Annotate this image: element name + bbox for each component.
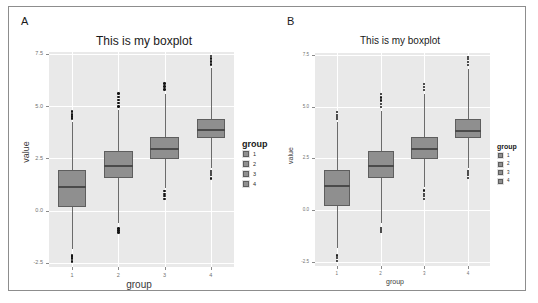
y-tick-label: 0.0 bbox=[19, 207, 43, 213]
x-tick-mark bbox=[72, 267, 73, 270]
legend-label: 2 bbox=[507, 161, 510, 166]
outlier-point bbox=[117, 105, 120, 108]
plot-title-b: This is my boxplot bbox=[305, 35, 495, 46]
boxplot-box bbox=[58, 170, 87, 207]
y-tick-label: -2.5 bbox=[19, 259, 43, 265]
x-tick-mark bbox=[118, 267, 119, 270]
x-tick-mark bbox=[381, 266, 382, 269]
outlier-point bbox=[380, 231, 382, 233]
outlier-point bbox=[380, 229, 382, 231]
outlier-point bbox=[117, 96, 120, 99]
x-tick-mark bbox=[337, 266, 338, 269]
y-tick-label: 5.0 bbox=[285, 104, 309, 109]
gridline-y bbox=[315, 107, 490, 108]
legend-label: 1 bbox=[253, 151, 256, 157]
legend-swatch[interactable] bbox=[498, 162, 503, 167]
y-axis-title-a: value bbox=[21, 127, 31, 177]
outlier-point bbox=[163, 82, 166, 85]
median-line bbox=[368, 165, 394, 167]
legend-label: 3 bbox=[253, 171, 256, 177]
whisker-line bbox=[211, 68, 212, 168]
y-tick-label: 0.0 bbox=[285, 207, 309, 212]
legend-swatch[interactable] bbox=[498, 179, 503, 184]
panel-letter-b: B bbox=[287, 15, 294, 27]
y-tick-label: 5.0 bbox=[19, 103, 43, 109]
y-tick-label: 2.5 bbox=[19, 155, 43, 161]
gridline-y bbox=[49, 263, 234, 264]
gridline-y bbox=[315, 210, 490, 211]
x-tick-label: 1 bbox=[322, 271, 352, 276]
gridline-y bbox=[315, 262, 490, 263]
x-tick-label: 1 bbox=[57, 272, 87, 278]
y-tick-label: -2.5 bbox=[285, 259, 309, 264]
outlier-point bbox=[210, 63, 213, 66]
outlier-point bbox=[336, 254, 338, 256]
outlier-point bbox=[163, 193, 166, 196]
x-tick-mark bbox=[211, 267, 212, 270]
y-tick-mark bbox=[46, 211, 49, 212]
outlier-point bbox=[380, 106, 382, 108]
y-tick-mark bbox=[46, 106, 49, 107]
median-line bbox=[455, 130, 481, 132]
outlier-point bbox=[380, 227, 382, 229]
outlier-point bbox=[210, 57, 213, 60]
outlier-point bbox=[336, 257, 338, 259]
x-axis-title-b: group bbox=[305, 278, 485, 285]
outlier-point bbox=[336, 260, 338, 262]
outlier-point bbox=[117, 92, 120, 95]
median-line bbox=[324, 185, 350, 187]
median-line bbox=[58, 186, 87, 188]
whisker-line bbox=[468, 69, 469, 168]
y-tick-mark bbox=[46, 263, 49, 264]
legend-swatch[interactable] bbox=[243, 161, 249, 167]
panel-b: B This is my boxplot value group -2.50.0… bbox=[277, 7, 527, 290]
outlier-point bbox=[163, 88, 166, 91]
x-tick-label: 2 bbox=[366, 271, 396, 276]
y-tick-mark bbox=[312, 158, 315, 159]
outlier-point bbox=[210, 60, 213, 63]
legend-label: 1 bbox=[507, 153, 510, 158]
x-tick-mark bbox=[165, 267, 166, 270]
legend-label: 4 bbox=[253, 181, 256, 187]
legend-swatch[interactable] bbox=[243, 181, 249, 187]
boxplot-box bbox=[455, 119, 481, 138]
y-tick-mark bbox=[312, 262, 315, 263]
gridline-y bbox=[49, 211, 234, 212]
gridline-y bbox=[315, 158, 490, 159]
x-tick-label: 4 bbox=[196, 272, 226, 278]
gridline-y bbox=[49, 106, 234, 107]
legend-swatch[interactable] bbox=[243, 171, 249, 177]
legend-title-a: group bbox=[242, 139, 268, 149]
outlier-point bbox=[380, 96, 382, 98]
x-tick-label: 3 bbox=[150, 272, 180, 278]
gridline-y bbox=[49, 158, 234, 159]
panel-a: A This is my boxplot value group -2.50.0… bbox=[9, 7, 277, 290]
panel-letter-a: A bbox=[21, 15, 28, 27]
outlier-point bbox=[380, 103, 382, 105]
plot-title-a: This is my boxplot bbox=[39, 34, 249, 48]
outlier-point bbox=[163, 85, 166, 88]
legend-swatch[interactable] bbox=[498, 153, 503, 158]
x-axis-title-a: group bbox=[39, 279, 239, 290]
median-line bbox=[150, 148, 179, 150]
figure-container: A This is my boxplot value group -2.50.0… bbox=[8, 6, 526, 291]
legend-label: 4 bbox=[507, 178, 510, 183]
x-tick-label: 4 bbox=[453, 271, 483, 276]
outlier-point bbox=[336, 111, 338, 113]
x-tick-label: 2 bbox=[103, 272, 133, 278]
y-tick-mark bbox=[46, 54, 49, 55]
outlier-point bbox=[117, 227, 120, 230]
median-line bbox=[104, 165, 133, 167]
gridline-y bbox=[49, 54, 234, 55]
outlier-point bbox=[163, 190, 166, 193]
x-tick-mark bbox=[424, 266, 425, 269]
gridline-y bbox=[315, 55, 490, 56]
x-tick-label: 3 bbox=[409, 271, 439, 276]
panel-background bbox=[315, 53, 490, 266]
legend-swatch[interactable] bbox=[243, 151, 249, 157]
median-line bbox=[197, 129, 226, 131]
legend-title-b: group bbox=[497, 143, 517, 150]
boxplot-box bbox=[324, 170, 350, 207]
legend-swatch[interactable] bbox=[498, 170, 503, 175]
legend-label: 2 bbox=[253, 161, 256, 167]
